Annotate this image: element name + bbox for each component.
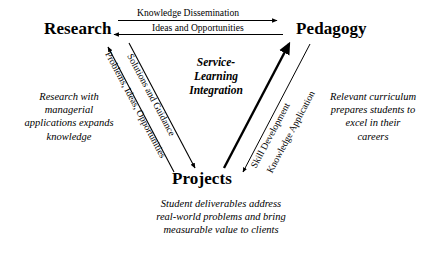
edge-label-ideas-opportunities: Ideas and Opportunities — [152, 23, 244, 33]
caption-bottom-projects: Student deliverables address real-world … — [118, 197, 324, 237]
edge-label-knowledge-dissemination: Knowledge Dissemination — [137, 8, 239, 18]
caption-right-pedagogy: Relevant curriculum prepares students to… — [312, 90, 434, 143]
node-research: Research — [44, 20, 112, 37]
caption-left-research: Research with managerial applications ex… — [8, 90, 130, 143]
center-label-service-learning-integration: Service- Learning Integration — [161, 55, 271, 97]
diagram-canvas: Research Pedagogy Projects Service- Lear… — [0, 0, 438, 262]
node-projects: Projects — [172, 170, 232, 187]
node-pedagogy: Pedagogy — [296, 20, 367, 37]
